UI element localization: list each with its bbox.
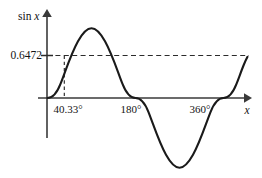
x-axis-arrow-icon: [244, 93, 252, 103]
x-tick-label-180: 180°: [121, 103, 142, 115]
y-axis-label-sin: sin: [18, 10, 32, 22]
y-value-label: 0.6472: [10, 49, 42, 61]
x-axis-label: x: [243, 104, 250, 116]
chart-svg: sin x 0.6472 40.33° 180° 360° x: [0, 0, 262, 178]
y-axis-label-variable: x: [33, 10, 40, 22]
sine-curve-figure: sin x 0.6472 40.33° 180° 360° x: [0, 0, 262, 178]
y-axis-label: sin x: [18, 10, 40, 22]
y-axis: [42, 9, 52, 138]
x-tick-label-40: 40.33°: [53, 103, 82, 115]
x-tick-label-360: 360°: [190, 103, 211, 115]
y-axis-arrow-icon: [42, 9, 52, 17]
